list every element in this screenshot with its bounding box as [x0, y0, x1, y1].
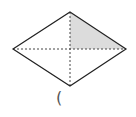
answer-bracket: (	[56, 90, 62, 106]
rhombus-diagram	[0, 0, 136, 117]
